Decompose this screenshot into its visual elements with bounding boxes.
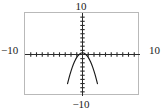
axis-range-label-bottom: −10	[0, 99, 162, 110]
axis-range-label-right: 10	[149, 45, 160, 56]
plot-frame	[24, 12, 139, 95]
parabola-graph-figure: 10 −10 10 −10	[0, 0, 162, 110]
plot-canvas	[25, 13, 140, 96]
axis-range-label-left: −10	[1, 45, 18, 56]
axis-range-label-top: 10	[0, 1, 162, 12]
